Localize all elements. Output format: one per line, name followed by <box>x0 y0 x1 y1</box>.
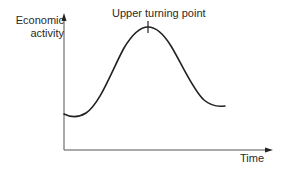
y-axis-label: Economic activity <box>16 14 64 40</box>
business-cycle-diagram: Economic activity Upper turning point Ti… <box>0 0 286 169</box>
y-axis-label-line2: activity <box>16 27 64 40</box>
x-axis-arrowhead-icon <box>265 148 273 153</box>
y-axis-label-line1: Economic <box>16 14 64 27</box>
upper-turning-point-label: Upper turning point <box>112 7 206 20</box>
x-axis-label: Time <box>240 152 264 165</box>
economic-activity-curve <box>64 27 225 117</box>
